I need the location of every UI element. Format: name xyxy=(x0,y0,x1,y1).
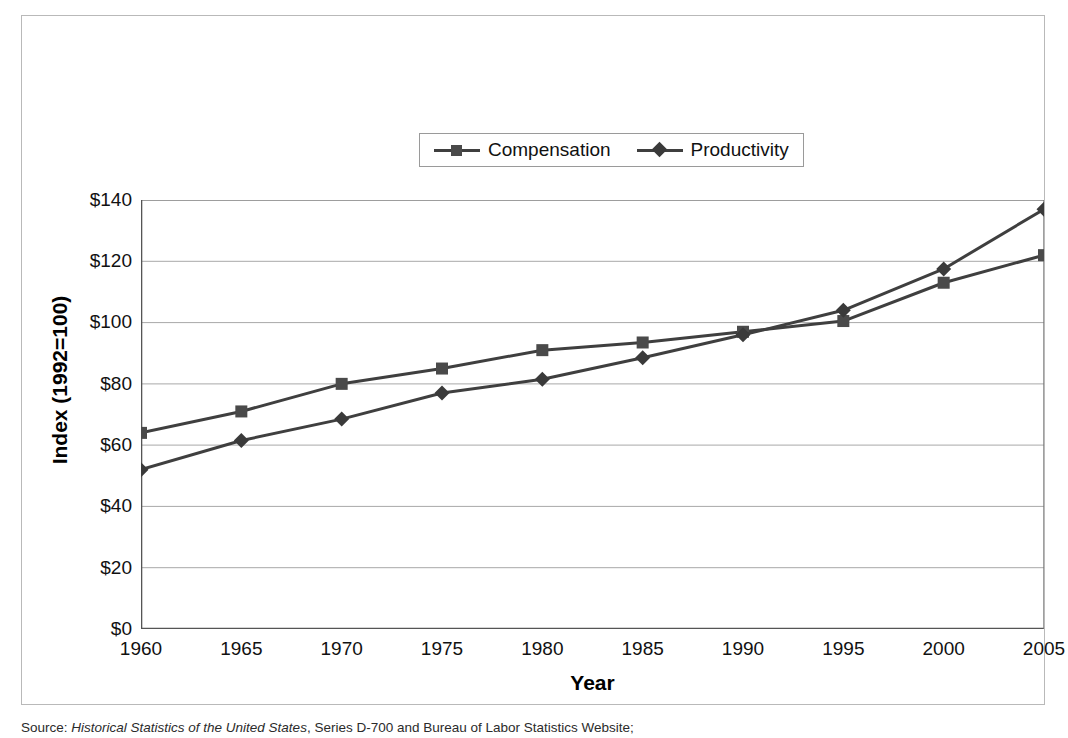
axis-lines xyxy=(141,200,1044,629)
x-tick-label: 1980 xyxy=(521,638,563,660)
series-group xyxy=(141,202,1044,477)
legend-entry-productivity: Productivity xyxy=(637,139,789,161)
diamond-marker-icon xyxy=(637,142,683,158)
source-caption: Source: Historical Statistics of the Uni… xyxy=(21,719,1051,736)
x-tick-label: 1990 xyxy=(722,638,764,660)
data-point-marker xyxy=(436,363,448,375)
y-tick-label: $0 xyxy=(70,619,132,638)
gridlines xyxy=(141,200,1044,568)
x-tick-label: 1965 xyxy=(220,638,262,660)
x-tick-label: 2005 xyxy=(1023,638,1065,660)
data-point-marker xyxy=(336,378,348,390)
data-point-marker xyxy=(635,350,650,365)
x-tick-label: 1970 xyxy=(321,638,363,660)
y-tick-label: $120 xyxy=(70,251,132,270)
y-tick-label: $40 xyxy=(70,496,132,515)
data-point-marker xyxy=(141,427,147,439)
x-tick-label: 1960 xyxy=(120,638,162,660)
legend-label-compensation: Compensation xyxy=(488,139,611,161)
data-point-marker xyxy=(1038,249,1044,261)
legend-label-productivity: Productivity xyxy=(691,139,789,161)
x-axis-title: Year xyxy=(141,671,1044,695)
chart-svg xyxy=(141,200,1044,629)
y-tick-label: $100 xyxy=(70,312,132,331)
data-point-marker xyxy=(938,277,950,289)
x-axis-tick-labels: 1960196519701975198019851990199520002005 xyxy=(141,638,1044,664)
data-point-marker xyxy=(234,433,249,448)
data-point-marker xyxy=(536,344,548,356)
data-point-marker xyxy=(936,261,951,276)
y-axis-title: Index (1992=100) xyxy=(48,250,72,510)
data-point-marker xyxy=(141,462,149,477)
figure-container: Compensation Productivity $140 $120 $100… xyxy=(0,0,1068,738)
plot-area xyxy=(141,200,1044,629)
chart-legend: Compensation Productivity xyxy=(419,133,804,167)
x-tick-label: 1975 xyxy=(421,638,463,660)
x-tick-label: 1995 xyxy=(822,638,864,660)
data-point-marker xyxy=(235,405,247,417)
data-point-marker xyxy=(535,372,550,387)
y-tick-label: $80 xyxy=(70,374,132,393)
source-rest: , Series D-700 and Bureau of Labor Stati… xyxy=(307,720,634,735)
data-point-marker xyxy=(435,386,450,401)
y-axis-tick-labels: $140 $120 $100 $80 $60 $40 $20 $0 xyxy=(62,200,132,629)
y-tick-label: $60 xyxy=(70,435,132,454)
series-line-productivity xyxy=(141,209,1044,469)
legend-entry-compensation: Compensation xyxy=(434,139,611,161)
square-marker-icon xyxy=(434,142,480,158)
x-tick-label: 2000 xyxy=(923,638,965,660)
source-title: Historical Statistics of the United Stat… xyxy=(71,720,307,735)
source-label: Source: xyxy=(21,720,71,735)
data-point-marker xyxy=(334,412,349,427)
y-tick-label: $140 xyxy=(70,190,132,209)
chart-frame: Compensation Productivity $140 $120 $100… xyxy=(21,15,1045,705)
x-tick-label: 1985 xyxy=(622,638,664,660)
y-tick-label: $20 xyxy=(70,558,132,577)
data-point-marker xyxy=(637,336,649,348)
